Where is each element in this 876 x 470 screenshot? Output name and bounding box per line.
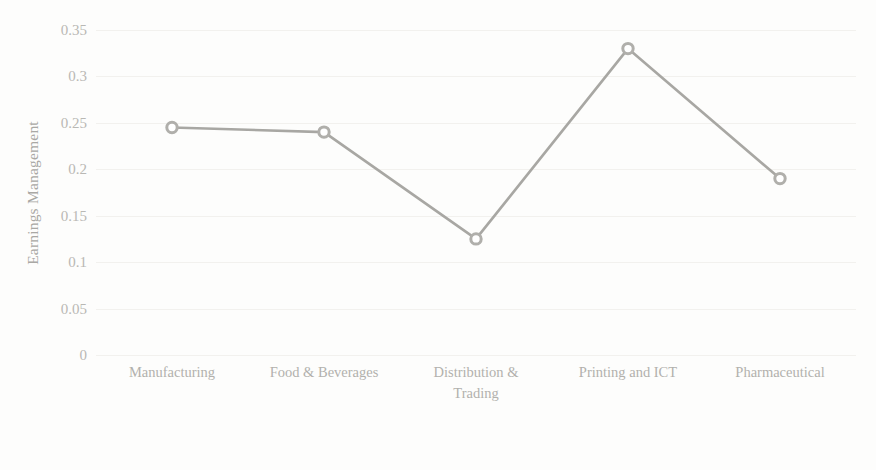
y-axis-tick-label: 0.35	[61, 22, 87, 39]
data-point-marker	[471, 234, 481, 244]
x-axis-tick-label-line1: Manufacturing	[129, 364, 215, 380]
y-axis-tick-label: 0.25	[61, 114, 87, 131]
data-point-marker	[319, 127, 329, 137]
x-axis-tick-label: Distribution &Trading	[434, 362, 519, 404]
data-point-marker	[623, 43, 633, 53]
y-axis-tick-label: 0.1	[68, 254, 87, 271]
x-axis-tick-label: Printing and ICT	[579, 362, 677, 383]
x-axis-tick-label-line1: Printing and ICT	[579, 364, 677, 380]
x-axis-tick-label-line1: Food & Beverages	[270, 364, 379, 380]
y-axis-tick-label: 0.3	[68, 68, 87, 85]
y-axis-tick-label: 0.15	[61, 207, 87, 224]
x-axis-tick-label-line1: Distribution &	[434, 364, 519, 380]
y-axis-tick-label: 0.2	[68, 161, 87, 178]
plot-area: 00.050.10.150.20.250.30.35	[96, 30, 856, 355]
series-line-earnings-management	[96, 30, 856, 355]
x-axis-tick-label: Pharmaceutical	[735, 362, 824, 383]
data-point-marker	[167, 122, 177, 132]
x-axis-labels: ManufacturingFood & BeveragesDistributio…	[96, 362, 856, 442]
x-axis-tick-label-line1: Pharmaceutical	[735, 364, 824, 380]
y-axis-title-label: Earnings Management	[24, 121, 42, 265]
x-axis-tick-label: Manufacturing	[129, 362, 215, 383]
y-axis-title: Earnings Management	[20, 28, 46, 358]
x-axis-tick-label: Food & Beverages	[270, 362, 379, 383]
x-axis-tick-label-line2: Trading	[434, 383, 519, 404]
line-chart: Earnings Management 00.050.10.150.20.250…	[0, 0, 876, 470]
data-point-marker	[775, 173, 785, 183]
y-axis-tick-label: 0	[80, 347, 88, 364]
gridline	[96, 355, 856, 356]
series-polyline	[172, 49, 780, 239]
y-axis-tick-label: 0.05	[61, 300, 87, 317]
